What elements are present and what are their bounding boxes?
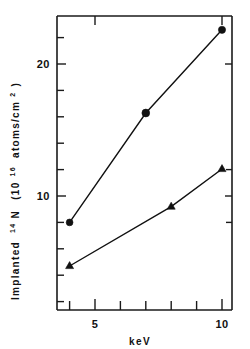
series-upper — [66, 26, 225, 226]
data-point-triangle-2 — [167, 202, 175, 209]
data-point-circle-3 — [218, 26, 225, 33]
ylabel-seg-units-superscript: 2 — [9, 92, 16, 97]
y-tick-marks — [57, 38, 66, 302]
ylabel-seg-nitrogen: N — [10, 210, 21, 219]
x-tick-marks-top — [95, 16, 222, 25]
plot-frame — [57, 16, 232, 310]
ylabel-seg-units: atoms/cm — [10, 101, 21, 158]
ylabel-seg-open-paren: (10 — [10, 182, 21, 200]
y-axis-title-text: Implanted 14 N (10 16 atoms/cm 2 ) — [6, 82, 21, 300]
y-axis-title: Implanted 14 N (10 16 atoms/cm 2 ) — [6, 82, 21, 300]
figure-container: 20 10 5 10 keV Implanted 14 N (10 16 ato… — [0, 0, 250, 349]
data-point-circle-1 — [66, 219, 73, 226]
x-tick-label-10: 10 — [215, 318, 228, 330]
x-tick-marks — [70, 299, 222, 310]
series-lower-line — [70, 169, 222, 266]
data-point-circle-2 — [142, 109, 150, 117]
ylabel-seg-exp-superscript: 16 — [9, 166, 16, 176]
series-lower — [66, 165, 226, 269]
series-upper-line — [70, 30, 222, 223]
ylabel-seg-close-paren: ) — [10, 82, 21, 87]
ylabel-seg-implanted: Implanted — [10, 241, 21, 300]
y-tick-label-20: 20 — [37, 58, 50, 70]
y-tick-label-10: 10 — [37, 190, 50, 202]
x-tick-label-5: 5 — [92, 318, 99, 330]
y-tick-marks-right — [225, 64, 232, 222]
ylabel-seg-iso-superscript: 14 — [9, 223, 16, 233]
x-axis-title: keV — [129, 336, 151, 347]
chart-svg: 20 10 5 10 keV Implanted 14 N (10 16 ato… — [0, 0, 250, 349]
data-point-triangle-3 — [218, 165, 226, 172]
